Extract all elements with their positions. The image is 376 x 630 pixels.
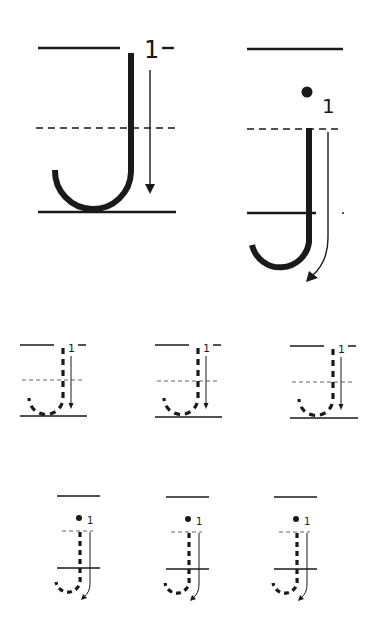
direction-arrow [301,533,307,598]
trace-uppercase-j-1[interactable]: 1 [20,342,87,416]
direction-arrow [312,132,328,276]
dashed-letter-j [56,532,80,592]
arrowhead-icon [204,403,209,409]
stroke-number: 1 [196,516,202,527]
arrowhead-icon [339,404,344,410]
baseline-dot [342,212,344,214]
letter-j-stroke [55,53,131,209]
model-lowercase-j: 1 [247,49,344,282]
letter-dot [302,87,313,98]
trace-uppercase-j-3[interactable]: 1 [290,343,358,418]
letter-j-stroke [252,128,309,267]
letter-dot [293,516,299,522]
letter-dot [76,515,82,521]
dashed-letter-j [165,533,189,593]
tracing-row-uppercase: 1 1 1 [20,342,358,418]
stroke-number: 1 [338,343,345,356]
letter-dot [185,516,191,522]
stroke-number: 1 [203,342,210,355]
direction-arrow [193,533,199,598]
stroke-number: 1 [322,94,335,118]
arrowhead-icon [145,184,155,194]
trace-lowercase-j-1[interactable]: 1 [56,496,100,600]
trace-lowercase-j-3[interactable]: 1 [273,497,317,601]
direction-arrow [84,532,90,597]
trace-lowercase-j-2[interactable]: 1 [165,497,209,601]
trace-uppercase-j-2[interactable]: 1 [155,342,222,417]
stroke-number: 1 [304,516,310,527]
dashed-letter-j [29,348,63,414]
arrowhead-icon [69,403,74,409]
tracing-row-lowercase: 1 1 1 [56,496,317,601]
handwriting-worksheet: 1 1 1 [0,0,376,630]
stroke-number: 1 [144,36,159,64]
stroke-number: 1 [87,515,93,526]
stroke-number: 1 [68,342,75,355]
dashed-letter-j [273,533,297,593]
model-uppercase-j: 1 [36,36,176,212]
